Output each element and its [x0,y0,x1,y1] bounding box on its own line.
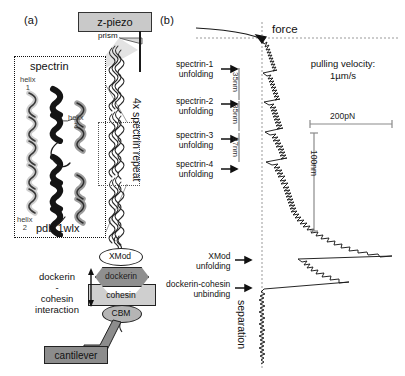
pulling-velocity-label: pulling velocity: 1µm/s [288,58,398,82]
annotation-xmod-line2: unfolding [196,261,231,271]
force-scale-bar-label: 200pN [330,111,355,121]
xmod-rupture-drop [298,256,392,259]
xmod-to-dockerin-stretch [298,259,349,283]
approach-trace [196,28,261,39]
contour-length-2: 35nm [231,104,240,124]
annotation-xmod-unfolding: XMod unfolding [196,252,231,271]
dockerin-cohesin-rupture [264,282,349,289]
annotation-spectrin-1-line2: unfolding [179,69,214,79]
separation-scale-bar-label: 100nm [309,150,319,176]
figure-canvas: (a) (b) z-piezo prism [0,0,405,376]
annotation-spectrin-3-line2: unfolding [179,140,214,150]
annotation-xmod-line1: XMod [208,251,230,261]
velocity-line-1: pulling velocity: [311,58,375,69]
annotation-dockerin-line2: unbinding [193,289,230,299]
contour-length-1: 35nm [231,72,240,92]
force-extension-plot [0,0,405,376]
post-separation-baseline-trace [259,289,265,364]
annotation-spectrin-4-line1: spectrin-4 [176,159,213,169]
contour-length-3: 37nm [231,137,240,157]
annotation-spectrin-2: spectrin-2 unfolding [176,97,213,116]
annotation-spectrin-2-line2: unfolding [179,106,214,116]
separation-axis-label: separation [236,300,248,349]
force-direction-arrow [256,35,266,43]
annotation-dockerin-line1: dockerin-cohesin [166,279,230,289]
annotation-spectrin-2-line1: spectrin-2 [176,96,213,106]
annotation-spectrin-1: spectrin-1 unfolding [176,60,213,79]
annotation-spectrin-1-line1: spectrin-1 [176,59,213,69]
annotation-dockerin-cohesin-unbinding: dockerin-cohesin unbinding [166,280,230,299]
annotation-spectrin-3-line1: spectrin-3 [176,130,213,140]
annotation-spectrin-3: spectrin-3 unfolding [176,131,213,150]
force-axis-label: force [272,23,298,35]
annotation-spectrin-4: spectrin-4 unfolding [176,160,213,179]
velocity-line-2: 1µm/s [330,70,356,81]
scale-bars [310,120,392,231]
annotation-spectrin-4-line2: unfolding [179,169,214,179]
